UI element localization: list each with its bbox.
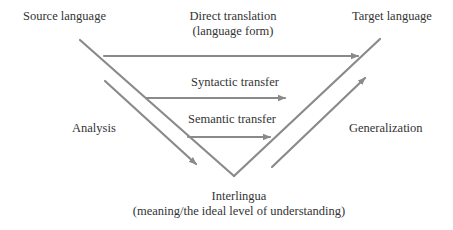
source-language-label: Source language — [23, 9, 106, 24]
semantic-transfer-label: Semantic transfer — [188, 112, 276, 127]
generalization-label: Generalization — [349, 121, 423, 136]
direct-translation-subtitle: (language form) — [189, 24, 276, 39]
triangle-right-side — [234, 39, 380, 176]
interlingua-title: Interlingua — [133, 189, 345, 204]
triangle-left-side — [80, 40, 234, 176]
analysis-label: Analysis — [72, 121, 116, 136]
direct-translation-title: Direct translation — [189, 9, 276, 24]
syntactic-transfer-label: Syntactic transfer — [191, 75, 279, 90]
direct-translation-label: Direct translation (language form) — [189, 9, 276, 39]
target-language-label: Target language — [352, 9, 432, 24]
analysis-arrow — [105, 81, 196, 164]
interlingua-label: Interlingua (meaning/the ideal level of … — [133, 189, 345, 219]
interlingua-subtitle: (meaning/the ideal level of understandin… — [133, 204, 345, 219]
